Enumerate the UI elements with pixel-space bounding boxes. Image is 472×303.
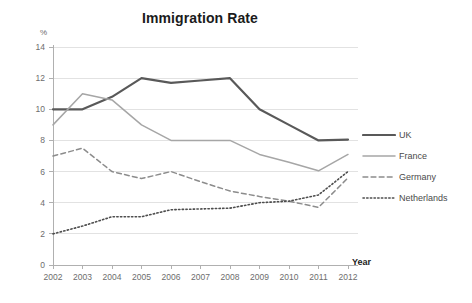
legend-label: UK <box>396 130 412 140</box>
legend-item-germany[interactable]: Germany <box>362 166 472 187</box>
legend-label: Germany <box>396 172 436 182</box>
immigration-rate-chart: Immigration Rate % Year 02468101214 2002… <box>0 0 472 303</box>
legend-label: Netherlands <box>396 193 448 203</box>
legend-item-netherlands[interactable]: Netherlands <box>362 187 472 208</box>
legend-label: France <box>396 151 427 161</box>
legend-swatch-uk-icon <box>362 130 396 140</box>
legend-item-uk[interactable]: UK <box>362 124 472 145</box>
legend-swatch-netherlands-icon <box>362 193 396 203</box>
legend-item-france[interactable]: France <box>362 145 472 166</box>
legend-swatch-france-icon <box>362 151 396 161</box>
legend-swatch-germany-icon <box>362 172 396 182</box>
chart-legend: UKFranceGermanyNetherlands <box>362 124 472 208</box>
